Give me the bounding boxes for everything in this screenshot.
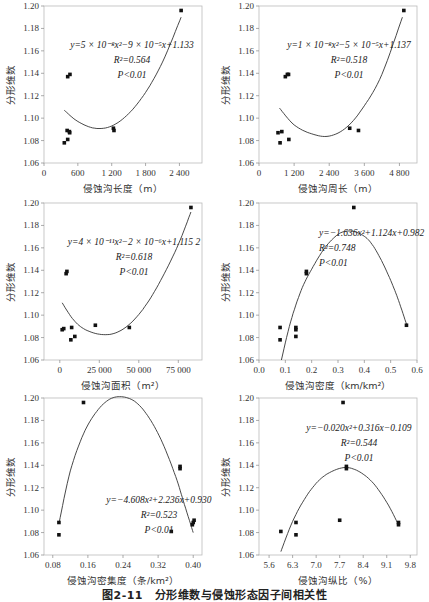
y-tick-label: 1.12 <box>23 483 39 493</box>
data-point <box>278 326 282 330</box>
x-tick-label: 0.24 <box>115 560 131 570</box>
y-tick-label: 1.16 <box>238 46 254 56</box>
chart-length: 1.061.081.101.121.141.161.181.2006001 20… <box>0 0 214 195</box>
x-tick-label: 8.4 <box>358 560 370 570</box>
y-tick-label: 1.18 <box>23 415 39 425</box>
x-axis-label: 侵蚀沟密集度（条/km²） <box>67 575 179 586</box>
x-tick-label: 0.2 <box>306 365 317 375</box>
x-axis-label: 侵蚀沟周长（m） <box>298 183 377 194</box>
data-point <box>66 138 70 142</box>
x-tick-label: 0.4 <box>359 365 371 375</box>
plot-frame <box>44 203 202 360</box>
plot-frame <box>259 203 417 360</box>
fit-annotation: R²=0.523 <box>140 510 178 520</box>
x-tick-label: 0 <box>257 168 262 178</box>
y-tick-label: 1.12 <box>23 288 39 298</box>
data-point <box>341 401 345 405</box>
x-axis-label: 侵蚀沟长度（m） <box>83 183 162 194</box>
y-axis-label: 分形维数 <box>5 457 16 497</box>
data-point <box>305 270 309 274</box>
x-tick-label: 7.0 <box>311 560 323 570</box>
data-point <box>189 206 193 210</box>
x-tick-label: 6.3 <box>287 560 299 570</box>
data-point <box>345 465 349 469</box>
chart-svg: 1.061.081.101.121.141.161.181.205.66.37.… <box>215 392 429 587</box>
x-tick-label: 9.8 <box>405 560 417 570</box>
fit-curve <box>281 468 399 552</box>
x-tick-label: 0.08 <box>45 560 61 570</box>
fit-annotation: y=−4.608x²+2.236x+0.930 <box>105 495 212 505</box>
chart-perimeter: 1.061.081.101.121.141.161.181.2001 2002 … <box>215 0 429 195</box>
figure-caption: 图2-11 分形维数与侵蚀形态因子间相关性 <box>0 586 429 602</box>
fit-annotation: R²=0.564 <box>113 55 151 65</box>
x-tick-label: 7.7 <box>334 560 346 570</box>
y-tick-label: 1.06 <box>238 355 254 365</box>
y-axis-label: 分形维数 <box>220 262 231 302</box>
data-point <box>57 521 61 525</box>
data-point <box>397 521 401 525</box>
data-point <box>357 129 361 133</box>
fit-annotation: P<0.01 <box>344 453 374 463</box>
chart-svg: 1.061.081.101.121.141.161.181.2001 2002 … <box>215 0 429 195</box>
chart-svg: 1.061.081.101.121.141.161.181.2006001 20… <box>0 0 214 195</box>
x-tick-label: 1 200 <box>102 168 123 178</box>
y-tick-label: 1.06 <box>23 550 39 560</box>
data-point <box>192 518 196 522</box>
data-point <box>94 323 98 327</box>
fit-annotation: P<0.01 <box>119 267 149 277</box>
y-tick-label: 1.16 <box>23 46 39 56</box>
chart-svg: 1.061.081.101.121.141.161.181.200.080.16… <box>0 392 214 587</box>
data-point <box>405 323 409 327</box>
fit-annotation: R²=0.518 <box>330 55 368 65</box>
y-tick-label: 1.20 <box>238 1 254 11</box>
chart-svg: 1.061.081.101.121.141.161.181.200.00.10.… <box>215 197 429 392</box>
y-tick-label: 1.20 <box>23 1 39 11</box>
fit-annotation: P<0.01 <box>144 525 174 535</box>
y-tick-label: 1.12 <box>238 91 254 101</box>
fit-annotation: y=4 × 10⁻¹¹x²−2 × 10⁻⁶x+1.115 2 <box>67 237 201 247</box>
x-tick-label: 0 <box>58 365 63 375</box>
y-tick-label: 1.14 <box>238 68 254 78</box>
y-tick-label: 1.14 <box>238 265 254 275</box>
y-tick-label: 1.20 <box>23 393 39 403</box>
data-point <box>352 206 356 210</box>
x-tick-label: 2 400 <box>169 168 190 178</box>
y-tick-label: 1.16 <box>238 243 254 253</box>
y-tick-label: 1.10 <box>238 113 254 123</box>
data-point <box>62 327 66 331</box>
fit-annotation: R²=0.618 <box>115 252 153 262</box>
x-tick-label: 75 000 <box>166 365 191 375</box>
y-tick-label: 1.08 <box>23 528 39 538</box>
plot-frame <box>44 398 202 555</box>
chart-density: 1.061.081.101.121.141.161.181.200.00.10.… <box>215 197 429 392</box>
y-axis-label: 分形维数 <box>220 457 231 497</box>
data-point <box>276 131 280 135</box>
chart-area: 1.061.081.101.121.141.161.181.20025 0005… <box>0 197 214 392</box>
fit-annotation: y=5 × 10⁻⁸x²−9 × 10⁻⁵x+1.133 <box>69 40 194 50</box>
fit-annotation: y=−0.020x²+0.316x−0.109 <box>305 423 412 433</box>
y-tick-label: 1.16 <box>23 438 39 448</box>
x-tick-label: 0.32 <box>150 560 166 570</box>
x-tick-label: 9.1 <box>381 560 392 570</box>
data-point <box>294 326 298 330</box>
data-point <box>68 131 72 135</box>
y-tick-label: 1.06 <box>23 355 39 365</box>
data-point <box>348 126 352 130</box>
x-tick-label: 0.0 <box>253 365 265 375</box>
y-tick-label: 1.18 <box>238 415 254 425</box>
y-tick-label: 1.08 <box>238 136 254 146</box>
x-axis-label: 侵蚀沟纵比（%） <box>298 575 377 586</box>
y-tick-label: 1.10 <box>23 113 39 123</box>
data-point <box>287 138 291 142</box>
y-tick-label: 1.18 <box>23 220 39 230</box>
chart-frequency: 1.061.081.101.121.141.161.181.200.080.16… <box>0 392 214 587</box>
plot-frame <box>259 6 417 163</box>
x-tick-label: 0.3 <box>332 365 344 375</box>
data-point <box>112 129 116 133</box>
y-tick-label: 1.16 <box>23 243 39 253</box>
data-point <box>65 270 69 274</box>
data-point <box>179 9 183 13</box>
data-point <box>278 338 282 342</box>
x-tick-label: 0.40 <box>185 560 201 570</box>
data-point <box>70 326 74 330</box>
